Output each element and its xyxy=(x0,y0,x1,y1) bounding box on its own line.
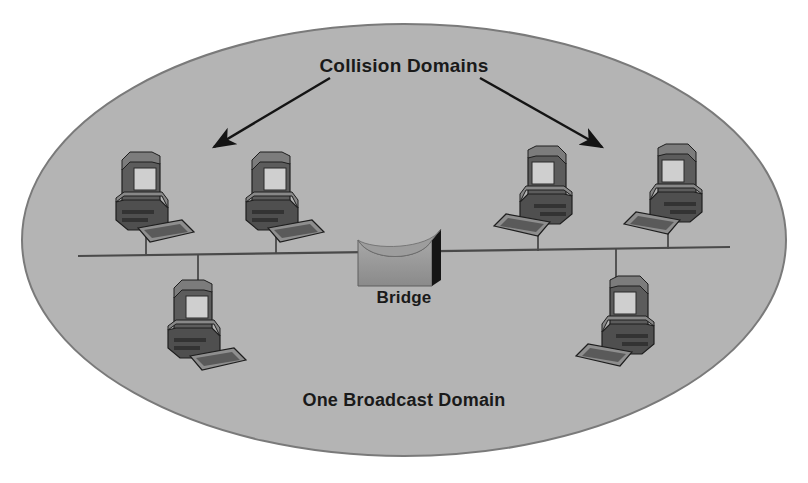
broadcast-domain-label: One Broadcast Domain xyxy=(0,390,808,411)
bridge-label: Bridge xyxy=(0,288,808,308)
diagram-canvas: Collision Domains Bridge One Broadcast D… xyxy=(0,0,808,483)
collision-domains-title: Collision Domains xyxy=(0,55,808,77)
